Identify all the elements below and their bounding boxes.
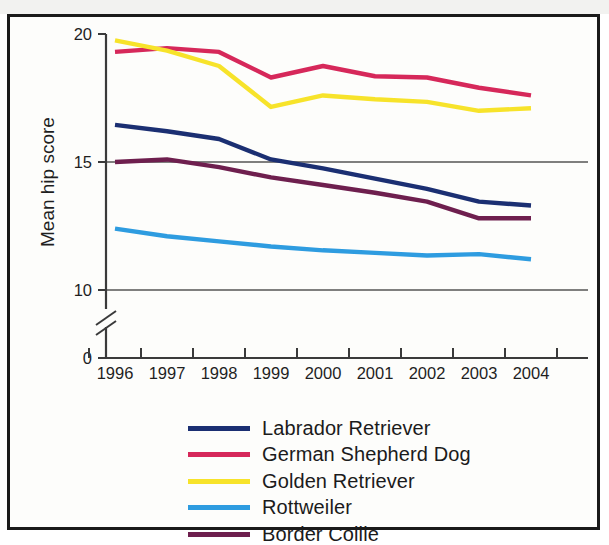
legend-swatch-icon	[188, 479, 250, 484]
legend-item-border-collie[interactable]: Border Collie	[188, 521, 588, 545]
chart-legend: Labrador RetrieverGerman Shepherd DogGol…	[188, 415, 588, 545]
legend-item-label: German Shepherd Dog	[262, 443, 471, 466]
x-tick-label-1996: 1996	[97, 364, 134, 382]
legend-swatch-icon	[188, 505, 250, 510]
x-ticks	[89, 348, 557, 358]
legend-item-labrador-retriever[interactable]: Labrador Retriever	[188, 415, 588, 442]
legend-item-rottweiler[interactable]: Rottweiler	[188, 495, 588, 522]
x-tick-label-1999: 1999	[253, 364, 290, 382]
x-tick-label-2004: 2004	[513, 364, 550, 382]
legend-item-label: Golden Retriever	[262, 470, 415, 493]
y-axis-title: Mean hip score	[37, 117, 58, 247]
x-tick-label-2000: 2000	[305, 364, 342, 382]
y-tick-label-10: 10	[74, 281, 92, 299]
legend-swatch-icon	[188, 452, 250, 457]
gridlines	[106, 162, 588, 290]
x-tick-labels: 199619971998199920002001200220032004	[97, 364, 550, 382]
y-tick-label-15: 15	[74, 153, 92, 171]
series-line-labrador-retriever	[115, 125, 531, 206]
figure-frame: 20 15 10 0 Mean hip score 19961997199819…	[7, 14, 600, 530]
top-margin-strip	[0, 0, 609, 14]
series-line-rottweiler	[115, 229, 531, 260]
x-tick-label-2001: 2001	[357, 364, 394, 382]
data-series-group	[115, 40, 531, 259]
legend-swatch-icon	[188, 426, 250, 431]
legend-item-label: Rottweiler	[262, 496, 352, 519]
legend-item-golden-retriever[interactable]: Golden Retriever	[188, 468, 588, 495]
x-tick-label-2003: 2003	[461, 364, 498, 382]
x-tick-label-1997: 1997	[149, 364, 186, 382]
legend-item-label: Labrador Retriever	[262, 417, 431, 440]
line-chart: 20 15 10 0 Mean hip score 19961997199819…	[10, 17, 600, 397]
legend-item-german-shepherd-dog[interactable]: German Shepherd Dog	[188, 442, 588, 469]
y-ticks	[98, 34, 106, 358]
y-tick-label-0: 0	[83, 349, 92, 367]
x-tick-label-2002: 2002	[409, 364, 446, 382]
x-tick-label-1998: 1998	[201, 364, 238, 382]
plot-area: 20 15 10 0 Mean hip score 19961997199819…	[10, 17, 600, 397]
legend-swatch-icon	[188, 532, 250, 537]
legend-item-label: Border Collie	[262, 523, 379, 545]
y-tick-label-20: 20	[74, 25, 92, 43]
